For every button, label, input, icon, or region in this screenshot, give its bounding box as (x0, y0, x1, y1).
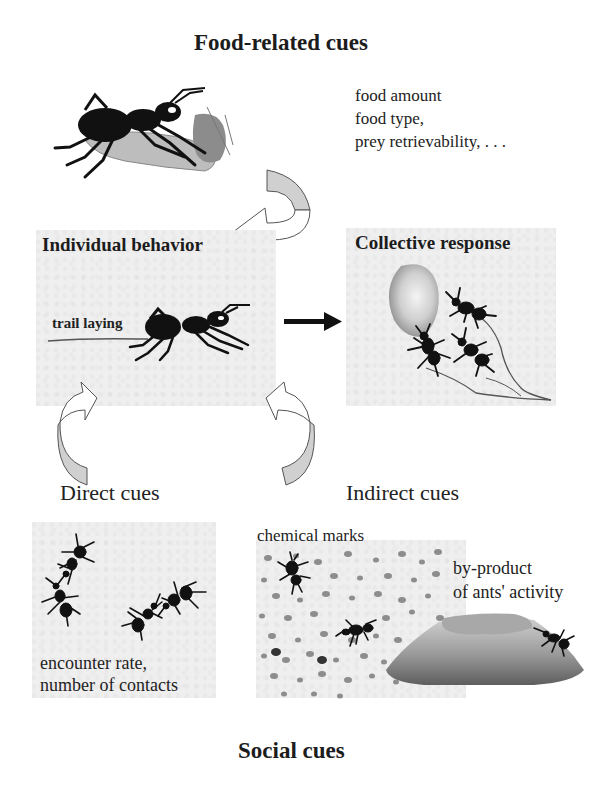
food-cues-list: food amount food type, prey retrievabili… (355, 84, 506, 153)
encountering-ants-illustration (32, 522, 216, 642)
direct-cues-caption: encounter rate, number of contacts (40, 652, 178, 696)
byproduct-line-1: by-product (453, 556, 563, 580)
number-of-contacts-text: number of contacts (40, 674, 178, 696)
food-cue-retrievability: prey retrievability, . . . (355, 130, 506, 153)
direct-cues-label: Direct cues (60, 480, 160, 506)
collective-foraging-illustration (346, 258, 556, 406)
curved-arrow-direct-to-individual (55, 370, 105, 480)
trail-laying-ant-illustration (48, 305, 258, 365)
arrow-individual-to-collective (282, 311, 344, 333)
food-cue-type: food type, (355, 107, 506, 130)
food-related-cues-title: Food-related cues (194, 30, 368, 56)
byproduct-line-2: of ants' activity (453, 580, 563, 604)
chemical-marks-label: chemical marks (257, 524, 364, 547)
encounter-rate-text: encounter rate, (40, 652, 178, 674)
individual-behavior-title: Individual behavior (42, 234, 203, 256)
collective-response-title: Collective response (355, 232, 510, 254)
ant-mound-illustration (384, 610, 589, 690)
curved-arrow-indirect-to-individual (262, 370, 322, 480)
social-cues-title: Social cues (238, 738, 345, 764)
byproduct-label: by-product of ants' activity (453, 556, 563, 604)
food-cue-amount: food amount (355, 84, 506, 107)
indirect-cues-label: Indirect cues (346, 480, 459, 506)
